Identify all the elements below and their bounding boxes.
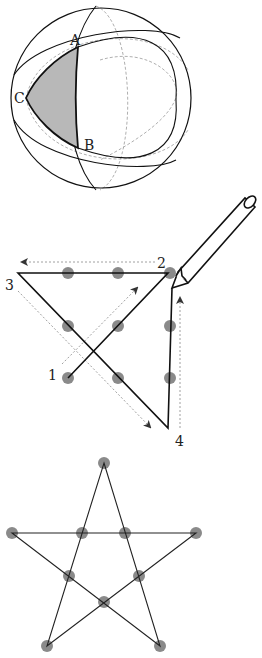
step-label-4: 4 xyxy=(175,433,184,449)
star-dots xyxy=(6,457,202,652)
star-outline xyxy=(12,463,196,646)
vertex-label-a: A xyxy=(69,32,81,48)
step-label-1: 1 xyxy=(48,367,57,383)
vertex-label-c: C xyxy=(14,90,25,106)
vertex-label-b: B xyxy=(84,137,94,153)
pencil-icon xyxy=(172,194,258,288)
spherical-triangle-abc xyxy=(26,47,78,148)
solution-path xyxy=(18,273,172,428)
step-label-3: 3 xyxy=(5,277,14,293)
step-label-2: 2 xyxy=(157,255,166,271)
nine-dots-puzzle: 1 2 3 4 xyxy=(5,194,258,449)
star-dots-puzzle xyxy=(6,457,202,652)
sphere-diagram: A B C xyxy=(11,6,191,190)
